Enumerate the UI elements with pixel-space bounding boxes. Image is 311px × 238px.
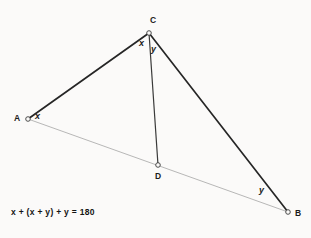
geometry-figure: A B C D x x y y x + (x + y) + y = 180 xyxy=(0,0,311,238)
equation-caption: x + (x + y) + y = 180 xyxy=(11,207,95,217)
figure-canvas xyxy=(0,0,311,238)
segment-CB xyxy=(149,33,288,212)
vertex-label-D: D xyxy=(155,172,161,181)
vertex-marker-B xyxy=(286,210,291,215)
angle-label-B: y xyxy=(259,186,264,195)
vertex-label-C: C xyxy=(150,16,156,25)
vertex-marker-A xyxy=(26,117,31,122)
vertex-marker-C xyxy=(147,31,152,36)
angle-label-C-left: x xyxy=(139,39,144,48)
angle-label-C-right: y xyxy=(151,45,156,54)
vertex-label-A: A xyxy=(14,114,20,123)
vertex-marker-D xyxy=(156,163,161,168)
segment-AC xyxy=(28,33,149,119)
angle-label-A: x xyxy=(35,112,40,121)
vertex-label-B: B xyxy=(295,209,301,218)
